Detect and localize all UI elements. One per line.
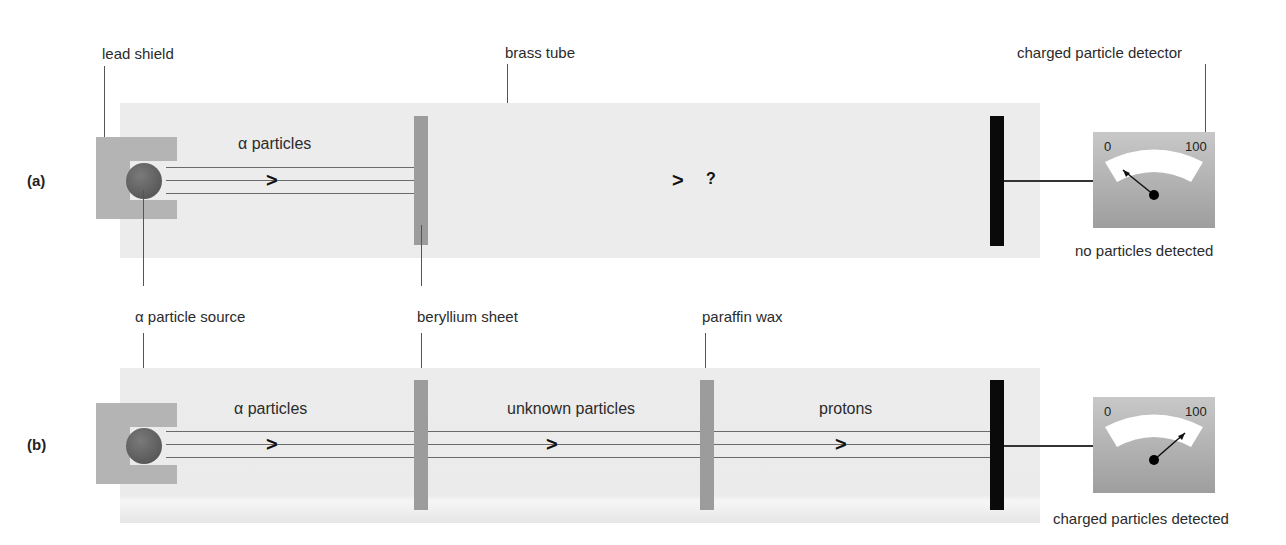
beam-a-mid xyxy=(166,180,414,181)
detector-wire-a xyxy=(1004,180,1093,182)
lead-shield-b xyxy=(96,403,177,427)
beam-a-top xyxy=(166,167,414,168)
beryllium-sheet-b xyxy=(414,380,428,510)
lead-shield-a-back xyxy=(96,161,130,200)
meter-status-b: charged particles detected xyxy=(1053,510,1229,528)
lead-shield-b-bottom xyxy=(96,465,177,484)
lead-shield-a xyxy=(96,137,177,161)
alpha-source-a xyxy=(126,163,162,199)
arrow-icon: > xyxy=(266,434,278,454)
beam-label-b-protons: protons xyxy=(819,400,872,418)
beam-b-mid xyxy=(166,444,990,445)
detector-wire-b xyxy=(1004,445,1093,447)
unknown-marker: ? xyxy=(706,170,716,188)
paraffin-label: paraffin wax xyxy=(702,308,783,326)
beam-b-top xyxy=(166,431,990,432)
meter-min: 0 xyxy=(1104,139,1111,154)
source-leader-up xyxy=(143,190,144,286)
beam-label-b-unknown: unknown particles xyxy=(507,400,635,418)
beryllium-label: beryllium sheet xyxy=(417,308,518,326)
detector-meter-a: 0 100 xyxy=(1093,132,1215,228)
beam-a-bot xyxy=(166,193,414,194)
detector-plate-b xyxy=(990,380,1004,510)
paraffin-wax-b xyxy=(700,380,714,510)
lead-shield-label: lead shield xyxy=(102,45,174,63)
meter-min: 0 xyxy=(1104,404,1111,419)
beam-label-b-alpha: α particles xyxy=(234,400,307,418)
source-label: α particle source xyxy=(135,308,245,326)
brass-tube-b xyxy=(120,368,1040,523)
panel-b-label: (b) xyxy=(27,436,46,453)
meter-max: 100 xyxy=(1185,404,1207,419)
alpha-source-b xyxy=(126,428,162,464)
detector-leader xyxy=(1205,64,1206,134)
brass-tube-leader xyxy=(507,64,508,104)
arrow-icon: > xyxy=(546,434,558,454)
arrow-icon: > xyxy=(835,434,847,454)
meter-status-a: no particles detected xyxy=(1075,242,1213,260)
beam-b-bot xyxy=(166,457,990,458)
arrow-icon: > xyxy=(266,170,278,190)
lead-shield-a-bottom xyxy=(96,200,177,219)
detector-meter-b: 0 100 xyxy=(1093,397,1215,493)
detector-label: charged particle detector xyxy=(1017,44,1182,62)
brass-tube-label: brass tube xyxy=(505,44,575,62)
beam-label-a-alpha: α particles xyxy=(238,135,311,153)
arrow-icon: > xyxy=(672,170,684,190)
meter-max: 100 xyxy=(1185,139,1207,154)
lead-shield-b-back xyxy=(96,427,130,465)
detector-plate-a xyxy=(990,116,1004,246)
panel-a-label: (a) xyxy=(27,172,45,189)
beryllium-leader-up xyxy=(421,225,422,286)
